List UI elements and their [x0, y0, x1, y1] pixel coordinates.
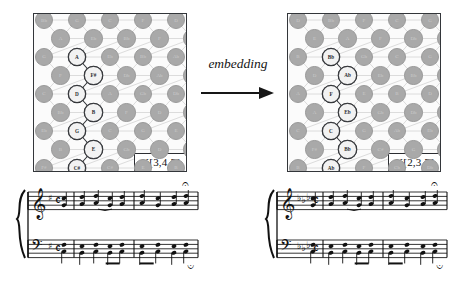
bass-clef: 𝄢	[280, 236, 292, 257]
embedding-label: embedding	[193, 56, 283, 72]
note	[404, 249, 410, 264]
brace	[266, 190, 274, 258]
note	[342, 249, 348, 264]
lattice-node: C#	[101, 159, 119, 172]
lattice-node: Cb	[388, 159, 406, 172]
note	[368, 242, 374, 247]
note	[61, 249, 67, 264]
lattice-node: F	[117, 103, 135, 121]
music-score-right: 𝄞𝄢♭♭♭♭♭♭𝄴𝄴𝄐𝄐	[255, 178, 451, 281]
time-signature: 𝄴	[55, 241, 61, 256]
lattice-node: Eb	[371, 66, 389, 84]
note	[404, 242, 410, 247]
lattice-node: F#	[305, 140, 323, 158]
key-signature-accidental: ♯	[48, 193, 52, 203]
fermata-top: 𝄐	[431, 178, 438, 191]
note	[119, 249, 125, 264]
figure-canvas: BbGCFDAEbBbFCGAEbBbAbFF#DbAbECDAGbDbBbBF…	[0, 0, 451, 283]
lattice-node: C#	[371, 140, 389, 158]
lattice-node: B	[289, 159, 307, 172]
lattice-node-highlighted: F#	[84, 66, 102, 84]
right-arrow-icon	[199, 84, 277, 102]
bass-clef: 𝄢	[31, 236, 43, 257]
key-signature-accidental: ♭	[306, 192, 310, 202]
key-signature-accidental: ♯	[48, 241, 52, 251]
lattice-node-highlighted: Ab	[338, 66, 356, 84]
lattice-node: Bb	[117, 29, 135, 47]
lattice-node: F	[150, 29, 168, 47]
lattice-node-highlighted: E	[84, 140, 102, 158]
note	[61, 242, 67, 247]
lattice-node: F	[371, 29, 389, 47]
lattice-node: F#	[35, 159, 53, 172]
lattice-node: Db	[421, 159, 439, 172]
note	[155, 242, 161, 247]
note	[183, 242, 189, 247]
fermata-bottom: 𝄐	[187, 260, 194, 274]
note	[119, 242, 125, 247]
tonnetz-lattice-left: BbGCFDAEbBbFCGAEbBbAbFF#DbAbECDAGbDbBbBF…	[34, 14, 186, 171]
grand-staff: 𝄞𝄢♭♭♭♭♭♭𝄴𝄴𝄐𝄐	[255, 178, 451, 281]
lattice-node: Bb	[51, 103, 69, 121]
lattice-node: Db	[117, 66, 135, 84]
fermata-bottom: 𝄐	[436, 260, 443, 274]
lattice-node: Ab	[150, 66, 168, 84]
lattice-node: Bb	[404, 66, 422, 84]
lattice-node: F	[51, 66, 69, 84]
time-signature: 𝄴	[55, 193, 61, 208]
note	[368, 249, 374, 264]
music-score-left: 𝄞𝄢♯♯𝄴𝄴𝄐𝄐	[6, 178, 206, 281]
lattice-node: B	[51, 140, 69, 158]
lattice-node: A	[305, 103, 323, 121]
lattice-node: D	[150, 140, 168, 158]
lattice-node: G	[404, 140, 422, 158]
fermata-top: 𝄐	[182, 178, 189, 191]
embedding-transform: embedding	[193, 56, 283, 106]
lattice-node: A	[51, 29, 69, 47]
lattice-node: B	[167, 159, 185, 172]
note	[93, 242, 99, 247]
lattice-node-highlighted: Eb	[338, 103, 356, 121]
note	[342, 242, 348, 247]
lattice-node: A	[338, 29, 356, 47]
lattice-node: Eb	[84, 29, 102, 47]
brace	[17, 190, 25, 258]
key-signature-accidental: ♭	[306, 240, 310, 250]
lattice-panel-left: BbGCFDAEbBbFCGAEbBbAbFF#DbAbECDAGbDbBbBF…	[33, 13, 187, 172]
lattice-node-highlighted: Ab	[322, 159, 340, 172]
lattice-node: F	[355, 159, 373, 172]
lattice-node-highlighted: B	[84, 103, 102, 121]
grand-staff: 𝄞𝄢♯♯𝄴𝄴𝄐𝄐	[6, 178, 206, 281]
lattice-node: Gb	[117, 140, 135, 158]
note	[155, 249, 161, 264]
lattice-node: Gb	[371, 103, 389, 121]
tonnetz-lattice-right: DBbFCGEAFDbAbBBbGbCGDAbEbBbFAFEBDAEbGbDb…	[288, 14, 440, 171]
lattice-node: E	[305, 29, 323, 47]
lattice-node: Db	[404, 103, 422, 121]
note	[432, 242, 438, 247]
treble-clef: 𝄞	[31, 188, 46, 220]
lattice-node: D	[150, 103, 168, 121]
lattice-node-highlighted: C#	[68, 159, 86, 172]
lattice-panel-right: DBbFCGEAFDbAbBBbGbCGDAbEbBbFAFEBDAEbGbDb…	[287, 13, 441, 172]
lattice-node: E	[134, 159, 152, 172]
lattice-node: Db	[404, 29, 422, 47]
note	[93, 249, 99, 264]
lattice-node-highlighted: Bb	[338, 140, 356, 158]
treble-clef: 𝄞	[280, 188, 295, 220]
lattice-node: D	[305, 66, 323, 84]
